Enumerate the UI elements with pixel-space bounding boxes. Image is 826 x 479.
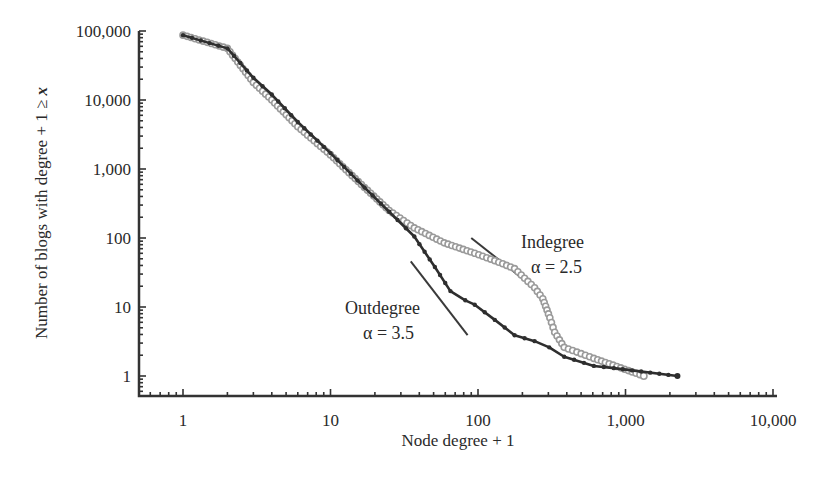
indegree-alpha-label: α = 2.5 (531, 257, 582, 277)
outdegree-marker (335, 158, 339, 162)
outdegree-marker (674, 373, 680, 379)
outdegree-marker (438, 273, 442, 277)
outdegree-marker (387, 210, 391, 214)
outdegree-marker (428, 257, 432, 261)
outdegree-marker (276, 99, 280, 103)
x-tick-label: 1 (179, 411, 188, 430)
x-tick-label: 1,000 (606, 411, 644, 430)
outdegree-marker (289, 113, 293, 117)
axis-lines (139, 31, 777, 396)
indegree-label: Indegree (521, 232, 584, 252)
outdegree-marker (260, 84, 264, 88)
outdegree-marker (502, 325, 506, 329)
outdegree-marker (443, 281, 447, 285)
outdegree-marker (199, 38, 203, 42)
outdegree-marker (328, 151, 332, 155)
outdegree-marker (493, 318, 497, 322)
outdegree-marker (547, 345, 551, 349)
axes: 1101001,00010,000100,0001101001,00010,00… (76, 22, 797, 430)
outdegree-label: Outdegree (345, 298, 420, 318)
outdegree-marker (602, 365, 606, 369)
outdegree-marker (417, 242, 421, 246)
outdegree-marker (379, 201, 383, 205)
outdegree-marker (362, 185, 366, 189)
outdegree-marker (612, 366, 616, 370)
outdegree-marker (296, 120, 300, 124)
outdegree-marker (630, 368, 634, 372)
series-layer (180, 32, 680, 379)
outdegree-marker (639, 369, 643, 373)
outdegree-marker (309, 132, 313, 136)
outdegree-alpha-label: α = 3.5 (363, 323, 414, 343)
x-tick-label: 10 (322, 411, 339, 430)
outdegree-marker (582, 361, 586, 365)
outdegree-marker (433, 265, 437, 269)
x-tick-label: 100 (465, 411, 491, 430)
outdegree-marker (562, 355, 566, 359)
outdegree-marker (657, 372, 661, 376)
y-tick-label: 1 (123, 367, 132, 386)
y-tick-label: 10,000 (84, 91, 131, 110)
outdegree-marker (207, 41, 211, 45)
outdegree-marker (512, 333, 516, 337)
outdegree-marker (473, 302, 477, 306)
outdegree-marker (412, 234, 416, 238)
x-axis-title: Node degree + 1 (402, 431, 515, 450)
y-axis-title-text: Number of blogs with degree + 1 ≥ (32, 95, 51, 339)
y-tick-label: 10 (114, 298, 131, 317)
outdegree-marker (232, 54, 236, 58)
outdegree-marker (648, 370, 652, 374)
indegree-marker (641, 373, 647, 379)
outdegree-marker (181, 33, 185, 37)
outdegree-marker (621, 367, 625, 371)
y-tick-label: 1,000 (93, 160, 131, 179)
outdegree-marker (302, 126, 306, 130)
y-axis-title: Number of blogs with degree + 1 ≥ x (32, 86, 51, 339)
outdegree-marker (283, 106, 287, 110)
outdegree-marker (190, 36, 194, 40)
outdegree-marker (483, 310, 487, 314)
outdegree-marker (666, 373, 670, 377)
outdegree-marker (371, 193, 375, 197)
y-tick-label: 100,000 (76, 22, 131, 41)
outdegree-marker (322, 145, 326, 149)
outdegree-marker (522, 336, 526, 340)
y-axis-title-variable: x (32, 86, 51, 96)
outdegree-marker (349, 172, 353, 176)
outdegree-marker (342, 165, 346, 169)
outdegree-marker (572, 358, 576, 362)
outdegree-marker (404, 226, 408, 230)
outdegree-marker (245, 68, 249, 72)
outdegree-marker (355, 178, 359, 182)
loglog-degree-distribution-chart: 1101001,00010,000100,0001101001,00010,00… (0, 0, 826, 479)
outdegree-marker (270, 92, 274, 96)
outdegree-marker (225, 46, 229, 50)
x-tick-label: 10,000 (750, 411, 797, 430)
outdegree-marker (422, 250, 426, 254)
outdegree-marker (395, 218, 399, 222)
outdegree-marker (315, 138, 319, 142)
outdegree-marker (592, 364, 596, 368)
outdegree-marker (448, 289, 452, 293)
outdegree-marker (251, 76, 255, 80)
outdegree-marker (463, 298, 467, 302)
y-tick-label: 100 (106, 229, 132, 248)
outdegree-marker (532, 339, 536, 343)
outdegree-marker (216, 44, 220, 48)
outdegree-marker (238, 61, 242, 65)
